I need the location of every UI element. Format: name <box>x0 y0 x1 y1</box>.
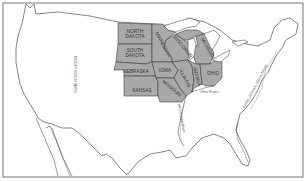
label-kansas: KANSAS <box>128 88 156 93</box>
label-ohio-river: Ohio River <box>196 90 222 95</box>
state-kansas <box>124 76 158 96</box>
label-line: DAKOTA <box>120 53 150 58</box>
label-line: DAKOTA <box>120 34 150 39</box>
label-ohio: OHIO <box>204 71 222 76</box>
label-north-dakota: NORTH DAKOTA <box>120 29 150 39</box>
label-rocky-mountains: ROCKY MOUNTAINS <box>72 55 77 95</box>
label-south-dakota: SOUTH DAKOTA <box>120 48 150 58</box>
label-iowa: IOWA <box>155 68 175 73</box>
label-nebraska: NEBRASKA <box>118 69 154 74</box>
